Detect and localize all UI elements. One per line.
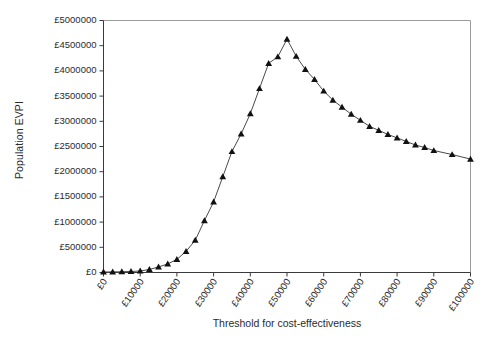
data-point-marker	[302, 66, 309, 72]
x-axis-tick-label: £20000	[155, 276, 182, 308]
x-axis-tick-label: £90000	[412, 276, 439, 308]
x-axis-tick-label: £30000	[192, 276, 219, 308]
data-point-marker	[229, 148, 236, 154]
data-point-marker	[357, 117, 364, 123]
data-point-marker	[348, 111, 355, 117]
x-axis-tick-label: £100000	[446, 276, 476, 313]
data-point-marker	[265, 60, 272, 66]
y-axis-tick-label: £500000	[60, 241, 97, 252]
data-series-line	[104, 39, 471, 272]
x-axis-title: Threshold for cost-effectiveness	[103, 317, 471, 329]
y-axis-tick-label: £5000000	[54, 14, 96, 25]
y-axis-tick-label: £2500000	[54, 140, 96, 151]
chart-plot-area: £0£500000£1000000£1500000£2000000£250000…	[0, 0, 493, 340]
data-point-marker	[210, 199, 217, 205]
data-point-marker	[164, 261, 171, 267]
data-point-marker	[375, 127, 382, 133]
y-axis-tick-label: £0	[86, 266, 97, 277]
data-marker-group	[100, 36, 474, 275]
data-point-marker	[284, 36, 291, 42]
data-point-marker	[366, 123, 373, 129]
y-axis-tick-label: £3000000	[54, 115, 96, 126]
data-point-marker	[339, 104, 346, 110]
data-point-marker	[293, 53, 300, 59]
data-point-marker	[238, 131, 245, 137]
x-axis-tick-label: £0	[94, 276, 109, 291]
data-point-marker	[192, 237, 199, 243]
y-axis-tick-label: £2000000	[54, 165, 96, 176]
y-axis-tick-label: £1000000	[54, 216, 96, 227]
data-point-marker	[256, 85, 263, 91]
x-axis-tick-label: £50000	[265, 276, 292, 308]
data-point-marker	[247, 110, 254, 116]
data-point-marker	[385, 131, 392, 137]
y-axis-tick-label: £4000000	[54, 64, 96, 75]
y-axis-tick-label: £3500000	[54, 90, 96, 101]
data-point-marker	[201, 217, 208, 223]
x-axis-tick-label: £10000	[119, 276, 146, 308]
x-axis-tick-label: £70000	[339, 276, 366, 308]
chart-figure: Population EVPI £0£500000£1000000£150000…	[0, 0, 493, 340]
data-point-marker	[219, 173, 226, 179]
y-axis-tick-label: £1500000	[54, 190, 96, 201]
x-axis-tick-label: £60000	[302, 276, 329, 308]
x-axis-tick-label: £80000	[376, 276, 403, 308]
x-axis-tick-label: £40000	[229, 276, 256, 308]
data-point-marker	[274, 53, 281, 59]
y-axis-tick-label: £4500000	[54, 39, 96, 50]
